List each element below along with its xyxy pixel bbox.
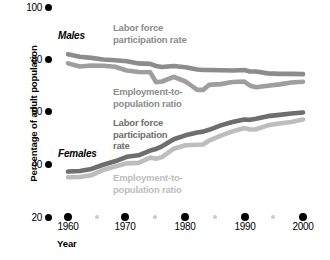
series-label-females-lfp-line3: rate: [113, 140, 167, 152]
series-label-females-lfp-line1: Labor force: [113, 117, 167, 129]
series-label-males-epr-line2: population ratio: [113, 98, 183, 110]
series-label-females-epr-line2: population ratio: [113, 184, 183, 196]
chart-container: Percentage of adult population 100 80 60…: [0, 0, 330, 260]
series-label-females-epr: Employment-to- population ratio: [113, 172, 183, 195]
series-label-males-lfp-line1: Labor force: [113, 22, 186, 34]
series-label-females-epr-line1: Employment-to-: [113, 172, 183, 184]
series-label-males-epr: Employment-to- population ratio: [113, 86, 183, 109]
series-line-females-epr: [68, 120, 303, 178]
series-label-males-lfp-line2: participation rate: [113, 34, 186, 46]
series-label-females-lfp: Labor force participation rate: [113, 117, 167, 152]
series-label-males-lfp: Labor force participation rate: [113, 22, 186, 45]
group-label-females: Females: [58, 148, 97, 159]
group-label-males: Males: [58, 30, 85, 41]
series-label-females-lfp-line2: participation: [113, 129, 167, 141]
series-line-females-lfp: [68, 112, 303, 171]
series-label-males-epr-line1: Employment-to-: [113, 86, 183, 98]
